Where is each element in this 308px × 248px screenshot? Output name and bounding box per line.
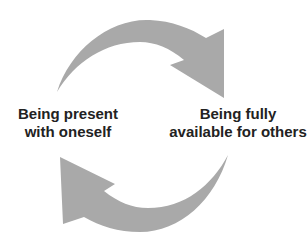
node-label-line: Being present (8, 105, 128, 123)
node-label-line: with oneself (8, 123, 128, 141)
node-being-available: Being fully available for others (168, 105, 308, 141)
cycle-diagram: Being present with oneself Being fully a… (0, 0, 308, 248)
node-label-line: Being fully (168, 105, 308, 123)
node-label-line: available for others (168, 123, 308, 141)
node-being-present: Being present with oneself (8, 105, 128, 141)
bottom-curved-arrow-icon (60, 155, 228, 232)
top-curved-arrow-icon (57, 20, 224, 98)
